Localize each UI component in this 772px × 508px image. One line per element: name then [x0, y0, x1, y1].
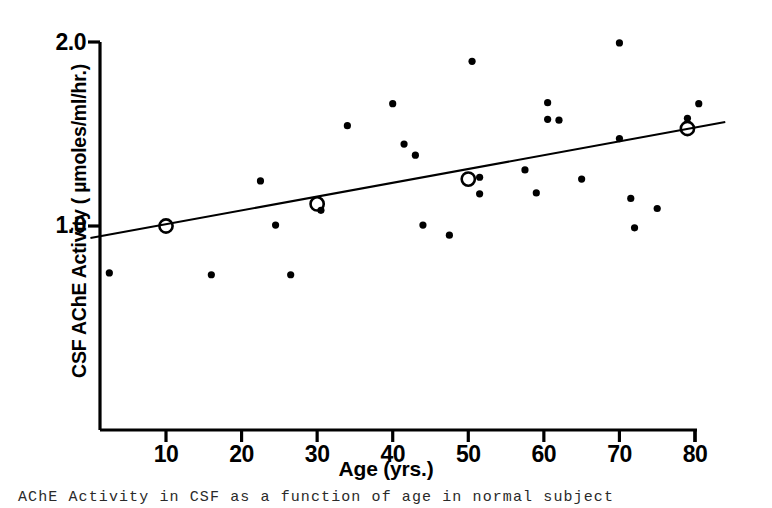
scatter-point: [654, 205, 661, 212]
scatter-point: [544, 116, 551, 123]
scatter-point: [616, 135, 623, 142]
scatter-point: [257, 177, 264, 184]
scatter-point: [287, 271, 294, 278]
scatter-point: [533, 189, 540, 196]
scatter-point: [106, 269, 113, 276]
scatter-point: [521, 166, 528, 173]
scatter-point: [616, 39, 623, 46]
scatter-point: [627, 195, 634, 202]
regression-line-segment: [90, 122, 725, 238]
scatter-point: [468, 58, 475, 65]
plot-area: [0, 0, 772, 508]
y-tick-label-1: 1.0: [28, 214, 86, 237]
scatter-point: [272, 221, 279, 228]
scatter-point: [412, 152, 419, 159]
scatter-point: [578, 175, 585, 182]
scatter-point: [555, 117, 562, 124]
scatter-point: [631, 224, 638, 231]
scatter-point: [446, 232, 453, 239]
scatter-point: [695, 100, 702, 107]
scatter-point: [419, 221, 426, 228]
scatter-point: [544, 99, 551, 106]
data-points: [106, 39, 703, 278]
scatter-point: [476, 174, 483, 181]
figure-caption: AChE Activity in CSF as a function of ag…: [0, 489, 772, 508]
x-axis-title: Age (yrs.): [0, 457, 772, 481]
scatter-point: [400, 141, 407, 148]
figure-caption-text: AChE Activity in CSF as a function of ag…: [18, 489, 614, 506]
scatter-point: [476, 190, 483, 197]
scatter-point: [344, 122, 351, 129]
y-tick-label-2: 2.0: [28, 31, 86, 54]
mean-marker: [311, 197, 324, 210]
scatter-point: [208, 271, 215, 278]
mean-marker: [462, 172, 475, 185]
scatter-point: [389, 100, 396, 107]
regression-line: [90, 122, 725, 238]
figure-scatter-plot: CSF AChE Activity ( µmoles/ml/hr.) 2.0 1…: [0, 0, 772, 508]
